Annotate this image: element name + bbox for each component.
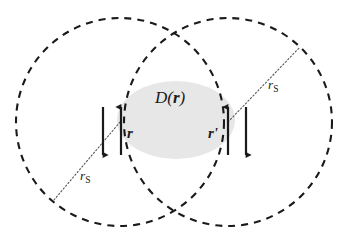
radius-label-right-subscript: S [273, 84, 279, 94]
left-radius-line [54, 122, 120, 200]
figure-canvas: D(r) r r' rS rS [0, 0, 346, 250]
vector-r-label: r [127, 126, 133, 141]
radius-label-right: rS [268, 78, 279, 94]
vector-r-prime-label: r' [208, 126, 218, 141]
domain-label: D(r) [155, 89, 185, 106]
domain-label-prefix: D( [155, 88, 173, 107]
domain-label-suffix: ) [180, 88, 186, 107]
radius-label-left-subscript: S [85, 175, 91, 185]
radius-label-left: rS [80, 169, 91, 185]
diagram-svg [0, 0, 346, 250]
right-radius-line [228, 47, 300, 122]
domain-label-vector: r [173, 88, 180, 107]
